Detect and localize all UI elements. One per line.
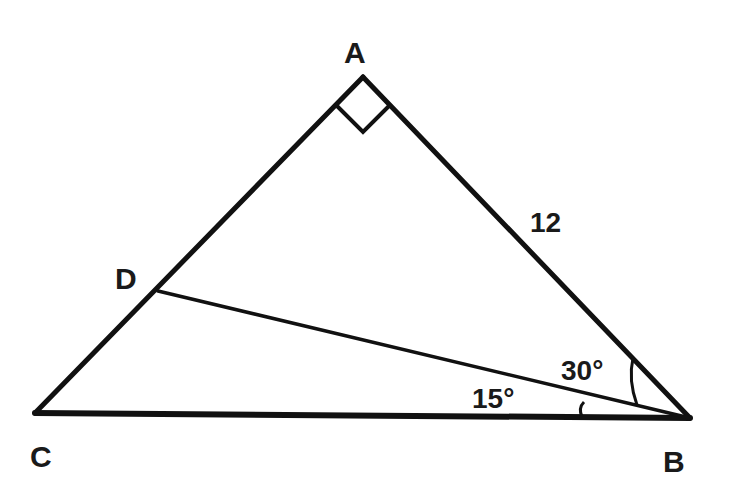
vertex-label-d: D <box>115 262 137 295</box>
side-cb <box>35 413 690 418</box>
vertex-label-a: A <box>344 36 366 69</box>
vertex-label-b: B <box>663 445 685 478</box>
angle-label-dbc: 15° <box>472 383 514 414</box>
vertex-label-c: C <box>30 440 52 473</box>
right-angle-marker <box>336 105 390 132</box>
side-ac <box>35 77 363 413</box>
side-ab <box>363 77 690 418</box>
side-label-ab: 12 <box>530 207 561 238</box>
angle-label-abd: 30° <box>561 355 603 386</box>
segment-db <box>158 291 690 418</box>
triangle-diagram: A B C D 12 30° 15° <box>0 0 731 497</box>
